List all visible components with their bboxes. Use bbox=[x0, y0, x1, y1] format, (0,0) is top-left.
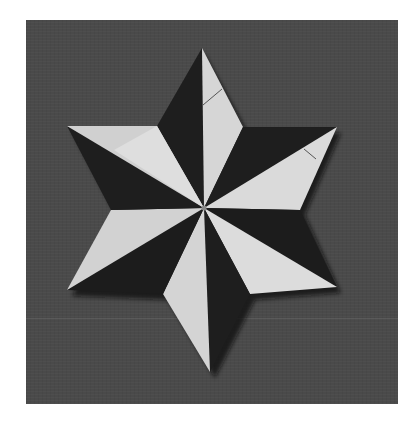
star-center bbox=[202, 206, 207, 211]
origami-star bbox=[0, 0, 420, 426]
